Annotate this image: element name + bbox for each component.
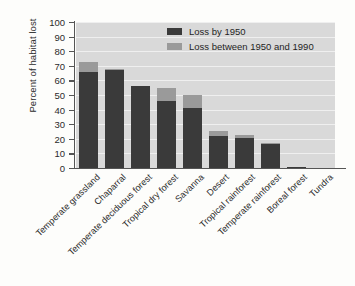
y-axis-tick	[69, 37, 75, 38]
bar-segment[interactable]	[157, 88, 176, 101]
y-axis-tick-label: 30	[25, 119, 65, 130]
legend-swatch	[167, 43, 182, 50]
y-axis-tick	[69, 168, 75, 169]
bar-segment[interactable]	[105, 69, 124, 70]
y-axis-tick-label: 80	[25, 46, 65, 57]
x-axis-category-label: Tundra	[308, 172, 335, 199]
x-axis-line	[74, 168, 346, 169]
legend-label: Loss between 1950 and 1990	[189, 41, 314, 52]
y-axis-tick-label: 20	[25, 133, 65, 144]
bar-segment[interactable]	[261, 143, 280, 144]
bar-segment[interactable]	[235, 135, 254, 138]
bar-segment[interactable]	[183, 95, 202, 108]
bar-group[interactable]	[79, 22, 98, 168]
bar-segment[interactable]	[209, 136, 228, 168]
bar-segment[interactable]	[79, 72, 98, 168]
y-axis-tick-label: 90	[25, 31, 65, 42]
bar-segment[interactable]	[235, 138, 254, 168]
bar-group[interactable]	[313, 22, 332, 168]
bar-segment[interactable]	[183, 108, 202, 168]
bar-segment[interactable]	[287, 167, 306, 168]
bar-segment[interactable]	[261, 144, 280, 168]
legend-item[interactable]: Loss between 1950 and 1990	[167, 41, 314, 51]
chart-legend: Loss by 1950Loss between 1950 and 1990	[167, 26, 314, 56]
y-axis-tick	[69, 80, 75, 81]
y-axis-tick-label: 100	[25, 17, 65, 28]
y-axis-tick-label: 0	[25, 163, 65, 174]
legend-item[interactable]: Loss by 1950	[167, 26, 314, 36]
habitat-loss-chart: Percent of habitat lost 1009080706050403…	[0, 0, 355, 286]
y-axis-tick	[69, 110, 75, 111]
bar-segment[interactable]	[131, 86, 150, 168]
y-axis-tick	[69, 22, 75, 23]
y-axis-tick-label: 60	[25, 75, 65, 86]
y-axis-tick	[69, 95, 75, 96]
y-axis-tick	[69, 153, 75, 154]
legend-swatch	[167, 28, 182, 35]
y-axis-tick-label: 40	[25, 104, 65, 115]
y-axis-tick	[69, 124, 75, 125]
bar-segment[interactable]	[209, 131, 228, 136]
y-axis-tick	[69, 66, 75, 67]
legend-label: Loss by 1950	[189, 26, 246, 37]
y-axis-tick-label: 10	[25, 148, 65, 159]
bar-group[interactable]	[131, 22, 150, 168]
y-axis-tick	[69, 51, 75, 52]
bar-group[interactable]	[105, 22, 124, 168]
y-axis-tick-label: 50	[25, 90, 65, 101]
bar-segment[interactable]	[105, 70, 124, 168]
y-axis-tick	[69, 139, 75, 140]
y-axis-tick-label: 70	[25, 60, 65, 71]
bar-segment[interactable]	[79, 62, 98, 71]
bar-segment[interactable]	[157, 101, 176, 168]
